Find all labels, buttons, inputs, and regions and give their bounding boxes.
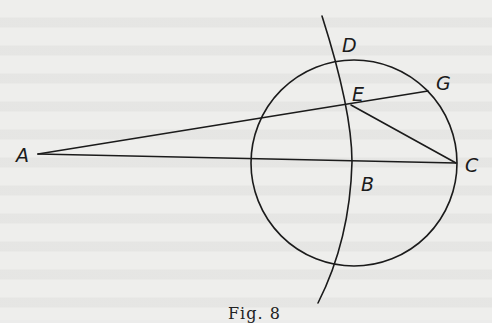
label-e: E xyxy=(352,83,364,105)
line-a-c xyxy=(38,154,456,163)
label-a: A xyxy=(14,144,29,166)
label-g: G xyxy=(436,72,451,94)
label-c: C xyxy=(465,154,479,176)
label-b: B xyxy=(361,173,374,195)
label-d: D xyxy=(342,34,357,56)
figure-caption: Fig. 8 xyxy=(228,304,281,323)
line-e-c xyxy=(351,105,456,163)
line-a-g xyxy=(38,91,428,154)
